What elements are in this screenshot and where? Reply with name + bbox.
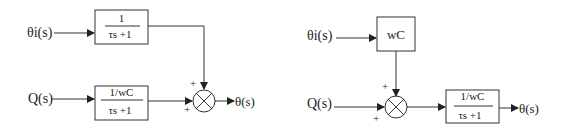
right-input-q-label: Q(s) bbox=[307, 96, 332, 112]
right-junction-top-sign: + bbox=[382, 80, 388, 92]
right-summing-junction bbox=[385, 96, 407, 118]
left-input-q-label: Q(s) bbox=[28, 91, 53, 107]
right-output-block-denominator: τs +1 bbox=[458, 109, 481, 121]
right-junction-left-sign: + bbox=[373, 112, 379, 124]
right-wc-block-label: wC bbox=[387, 27, 405, 42]
left-junction-left-sign: + bbox=[184, 103, 190, 115]
right-input-theta-i-label: θi(s) bbox=[307, 28, 333, 44]
left-bottom-block-denominator: τs +1 bbox=[108, 104, 131, 116]
left-input-theta-i-label: θi(s) bbox=[27, 25, 53, 41]
right-block-diagram: θi(s) wC Q(s) + + 1/wC τs +1 θ(s) bbox=[307, 17, 539, 124]
left-summing-junction bbox=[193, 90, 215, 112]
left-output-theta-label: θ(s) bbox=[235, 94, 255, 109]
left-junction-top-sign: + bbox=[190, 77, 196, 89]
right-output-block-numerator: 1/wC bbox=[461, 90, 485, 102]
right-output-theta-label: θ(s) bbox=[519, 101, 539, 116]
block-diagrams-canvas: θi(s) 1 τs +1 Q(s) 1/wC τs +1 + + θ(s) bbox=[0, 0, 563, 133]
left-top-block-denominator: τs +1 bbox=[108, 28, 131, 40]
left-bottom-block-numerator: 1/wC bbox=[110, 86, 134, 98]
left-top-block-numerator: 1 bbox=[119, 12, 125, 24]
left-block-diagram: θi(s) 1 τs +1 Q(s) 1/wC τs +1 + + θ(s) bbox=[27, 10, 255, 120]
